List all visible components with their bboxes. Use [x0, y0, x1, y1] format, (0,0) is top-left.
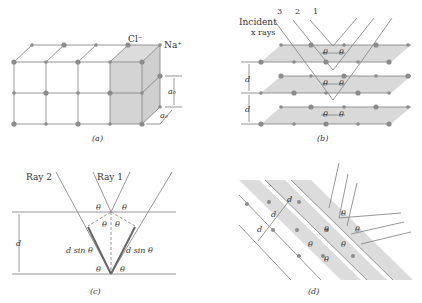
label-sodium: Na⁺: [164, 40, 182, 50]
ray-number-1: 1: [313, 7, 318, 16]
bragg-planes-diagram: Incident x rays 3 2 1 θ θ θ θ θ θ d d (b…: [211, 0, 422, 150]
label-a0-vertical: a₀: [168, 87, 177, 96]
label-dsin-right: d sin θ: [126, 246, 153, 255]
theta-c-2: θ: [122, 203, 127, 212]
theta-bot-left: θ: [323, 110, 328, 119]
label-d-2: d: [271, 210, 276, 219]
theta-d-6: θ: [324, 255, 329, 264]
label-d: d: [16, 239, 21, 248]
theta-c-6: θ: [120, 265, 125, 274]
label-ray-1: Ray 1: [97, 172, 123, 182]
caption-a: (a): [92, 134, 103, 143]
label-d-upper: d: [245, 75, 250, 84]
panel-a-nacl-lattice: Cl⁻ Na⁺ a₀ a₀ (a): [0, 0, 211, 150]
theta-c-1: θ: [96, 203, 101, 212]
label-dsin-left: d sin θ: [66, 246, 93, 255]
caption-c: (c): [90, 287, 101, 296]
theta-bot-right: θ: [339, 110, 344, 119]
caption-d: (d): [308, 287, 319, 296]
theta-c-5: θ: [96, 265, 101, 274]
panel-b-bragg-planes: Incident x rays 3 2 1 θ θ θ θ θ θ d d (b…: [211, 0, 422, 150]
label-x-rays: x rays: [251, 28, 275, 37]
tilted-planes-diagram: d d d θ θ θ θ θ θ (d): [211, 150, 422, 303]
label-d-1: d: [257, 225, 262, 234]
theta-d-5: θ: [341, 240, 346, 249]
theta-top-left: θ: [323, 48, 328, 57]
theta-c-3: θ: [102, 220, 107, 229]
label-chloride: Cl⁻: [128, 34, 143, 44]
ray-number-3: 3: [277, 7, 282, 16]
theta-top-right: θ: [339, 48, 344, 57]
caption-b: (b): [317, 134, 328, 143]
path-difference-diagram: Ray 2 Ray 1 θ θ θ θ θ θ d d sin θ d sin …: [0, 150, 211, 303]
label-ray-2: Ray 2: [26, 172, 52, 182]
theta-d-4: θ: [308, 240, 313, 249]
theta-d-3: θ: [355, 225, 360, 234]
theta-c-4: θ: [115, 220, 120, 229]
theta-d-2: θ: [324, 225, 329, 234]
theta-d-1: θ: [341, 209, 346, 218]
label-a0-depth: a₀: [160, 111, 169, 120]
ray-number-2: 2: [295, 7, 300, 16]
theta-mid-right: θ: [339, 79, 344, 88]
panel-c-path-difference: Ray 2 Ray 1 θ θ θ θ θ θ d d sin θ d sin …: [0, 150, 211, 303]
label-d-3: d: [287, 195, 292, 204]
label-d-lower: d: [245, 105, 250, 114]
theta-mid-left: θ: [323, 79, 328, 88]
panel-d-tilted-planes: d d d θ θ θ θ θ θ (d): [211, 150, 422, 303]
nacl-lattice-diagram: Cl⁻ Na⁺ a₀ a₀ (a): [0, 0, 211, 150]
label-incident: Incident: [239, 17, 277, 27]
